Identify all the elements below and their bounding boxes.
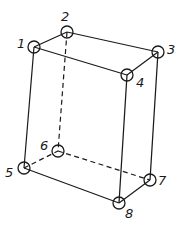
vertex-4: 4 xyxy=(121,69,144,90)
vertex-1: 1 xyxy=(17,36,40,53)
edge-2-6-hidden xyxy=(58,32,67,151)
vertex-label: 6 xyxy=(40,138,48,153)
edge-1-5 xyxy=(24,47,34,168)
vertex-label: 5 xyxy=(5,165,13,180)
edge-4-8 xyxy=(119,75,127,203)
edges-layer xyxy=(24,32,158,203)
vertex-label: 3 xyxy=(167,42,175,57)
edge-3-7 xyxy=(150,52,158,180)
edge-5-8 xyxy=(24,168,119,203)
vertex-label: 4 xyxy=(136,75,144,90)
edge-6-7-hidden xyxy=(58,151,150,180)
vertex-5: 5 xyxy=(5,162,30,180)
box-diagram: 12345678 xyxy=(0,0,180,226)
edge-1-4 xyxy=(34,47,127,75)
vertex-label: 2 xyxy=(61,9,69,24)
vertex-label: 1 xyxy=(17,36,25,51)
vertex-label: 8 xyxy=(125,206,133,221)
edge-2-3 xyxy=(67,32,158,52)
vertex-3: 3 xyxy=(152,42,175,58)
vertex-7: 7 xyxy=(144,173,167,188)
nodes-layer: 12345678 xyxy=(5,9,175,221)
vertex-label: 7 xyxy=(158,173,167,188)
vertex-6: 6 xyxy=(40,138,64,157)
